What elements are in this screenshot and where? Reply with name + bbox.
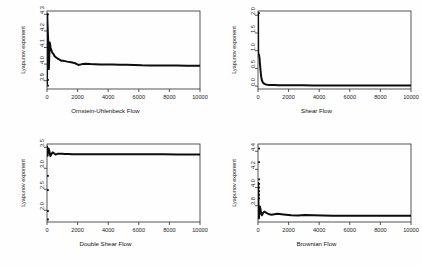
x-tick-label: 0 [45,94,48,100]
x-tick-label: 0 [45,227,48,233]
x-tick-label: 6000 [133,94,145,100]
data-point-marker [258,198,260,200]
x-axis-label-brownian-flow: Brownian Flow [211,240,422,247]
x-tick-label: 0 [256,94,259,100]
panel-ornstein-uhlenbeck-flow: Lyapunov exponent3.94.04.14.24.302000400… [0,0,211,133]
x-tick-label: 6000 [344,94,356,100]
panel-double-shear-flow: Lyapunov exponent2.02.53.03.502000400060… [0,133,211,266]
x-axis-label-ornstein-uhlenbeck-flow: Ornstein-Uhlenbeck Flow [0,107,211,114]
data-series-line [47,14,200,84]
x-tick-label: 10000 [192,227,208,233]
data-series-line [258,13,411,85]
x-tick-label: 10000 [192,94,208,100]
data-point-marker [258,161,260,163]
y-axis-label-ornstein-uhlenbeck-flow: Lyapunov exponent [20,11,32,89]
x-axis-label-shear-flow: Shear Flow [211,107,422,114]
y-axis-label-brownian-flow: Lyapunov exponent [231,144,243,222]
plot-frame [47,11,200,89]
data-point-marker [47,79,49,81]
series-group [47,13,200,86]
x-tick-label: 8000 [163,227,175,233]
x-tick-label: 2000 [71,94,83,100]
data-point-marker [258,12,260,14]
plot-frame [258,144,411,222]
series-group [47,147,200,221]
x-tick-label: 4000 [102,227,114,233]
x-axis-label-double-shear-flow: Double Shear Flow [0,240,211,247]
x-tick-label: 2000 [282,94,294,100]
data-point-marker [258,148,260,150]
y-axis-label-double-shear-flow: Lyapunov exponent [20,144,32,222]
data-point-marker [47,85,49,87]
x-tick-label: 0 [256,227,259,233]
data-point-marker [258,178,260,180]
plot-frame [258,11,411,89]
panel-brownian-flow: Lyapunov exponent3.84.04.24.402000400060… [211,133,422,266]
data-point-marker [258,187,260,189]
panel-shear-flow: Lyapunov exponent0.00.51.01.52.002000400… [211,0,422,133]
x-tick-label: 8000 [374,94,386,100]
data-point-marker [258,190,260,192]
data-series-line [258,183,411,218]
data-point-marker [47,189,49,191]
data-series-line [47,147,200,157]
data-point-marker [47,175,49,177]
x-tick-label: 4000 [313,94,325,100]
x-tick-label: 8000 [374,227,386,233]
data-point-marker [258,194,260,196]
series-group [258,12,411,85]
x-tick-label: 10000 [403,94,419,100]
figure-canvas: Lyapunov exponent3.94.04.14.24.302000400… [0,0,422,266]
x-tick-label: 2000 [282,227,294,233]
data-point-marker [47,210,49,212]
x-tick-label: 4000 [313,227,325,233]
data-point-marker [47,219,49,221]
series-group [258,148,411,219]
x-tick-label: 6000 [133,227,145,233]
data-point-marker [47,13,49,15]
plot-frame [47,144,200,222]
x-tick-label: 2000 [71,227,83,233]
x-tick-label: 4000 [102,94,114,100]
x-tick-label: 10000 [403,227,419,233]
x-tick-label: 6000 [344,227,356,233]
x-tick-label: 8000 [163,94,175,100]
y-axis-label-shear-flow: Lyapunov exponent [231,11,243,89]
data-point-marker [258,183,260,185]
